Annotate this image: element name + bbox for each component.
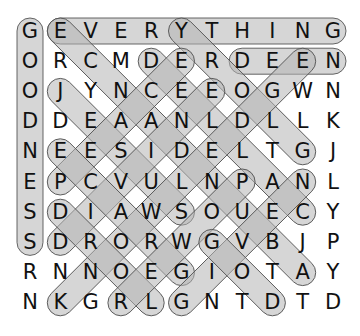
grid-cell-r8-c2[interactable]: N [76,258,106,288]
grid-cell-r9-c8[interactable]: D [257,288,287,318]
grid-cell-r6-c4[interactable]: W [136,197,166,227]
grid-cell-r7-c0[interactable]: S [15,227,45,257]
grid-cell-r8-c4[interactable]: E [136,258,166,288]
grid-cell-r3-c10[interactable]: K [318,107,348,137]
grid-cell-r0-c2[interactable]: V [76,16,106,46]
grid-cell-r9-c2[interactable]: G [76,288,106,318]
grid-cell-r4-c3[interactable]: S [106,137,136,167]
grid-cell-r8-c7[interactable]: O [227,258,257,288]
grid-cell-r7-c6[interactable]: G [197,227,227,257]
grid-cell-r6-c8[interactable]: E [257,197,287,227]
grid-cell-r6-c9[interactable]: C [288,197,318,227]
grid-cell-r4-c0[interactable]: N [15,137,45,167]
grid-cell-r5-c4[interactable]: U [136,167,166,197]
grid-cell-r0-c4[interactable]: R [136,16,166,46]
grid-cell-r4-c7[interactable]: L [227,137,257,167]
grid-cell-r3-c1[interactable]: D [45,107,75,137]
grid-cell-r9-c3[interactable]: R [106,288,136,318]
grid-cell-r6-c7[interactable]: U [227,197,257,227]
grid-cell-r8-c1[interactable]: N [45,258,75,288]
grid-cell-r2-c4[interactable]: C [136,76,166,106]
grid-cell-r1-c1[interactable]: R [45,46,75,76]
grid-cell-r2-c3[interactable]: N [106,76,136,106]
grid-cell-r6-c1[interactable]: D [45,197,75,227]
grid-cell-r8-c3[interactable]: O [106,258,136,288]
grid-cell-r0-c5[interactable]: Y [167,16,197,46]
grid-cell-r2-c10[interactable]: N [318,76,348,106]
grid-cell-r9-c4[interactable]: L [136,288,166,318]
grid-cell-r9-c1[interactable]: K [45,288,75,318]
grid-cell-r1-c6[interactable]: R [197,46,227,76]
grid-cell-r4-c5[interactable]: D [167,137,197,167]
grid-cell-r6-c3[interactable]: A [106,197,136,227]
grid-cell-r0-c1[interactable]: E [45,16,75,46]
grid-cell-r9-c0[interactable]: N [15,288,45,318]
grid-cell-r5-c8[interactable]: A [257,167,287,197]
grid-cell-r6-c6[interactable]: O [197,197,227,227]
grid-cell-r4-c9[interactable]: G [288,137,318,167]
grid-cell-r1-c0[interactable]: O [15,46,45,76]
grid-cell-r8-c10[interactable]: Y [318,258,348,288]
grid-cell-r4-c8[interactable]: T [257,137,287,167]
grid-cell-r7-c8[interactable]: B [257,227,287,257]
grid-cell-r0-c9[interactable]: N [288,16,318,46]
grid-cell-r1-c7[interactable]: D [227,46,257,76]
grid-cell-r1-c9[interactable]: E [288,46,318,76]
grid-cell-r3-c4[interactable]: A [136,107,166,137]
grid-cell-r5-c3[interactable]: V [106,167,136,197]
grid-cell-r2-c7[interactable]: O [227,76,257,106]
grid-cell-r5-c7[interactable]: P [227,167,257,197]
grid-cell-r1-c2[interactable]: C [76,46,106,76]
grid-cell-r0-c6[interactable]: T [197,16,227,46]
grid-cell-r0-c10[interactable]: G [318,16,348,46]
grid-cell-r2-c6[interactable]: E [197,76,227,106]
grid-cell-r8-c5[interactable]: G [167,258,197,288]
grid-cell-r8-c8[interactable]: T [257,258,287,288]
grid-cell-r4-c10[interactable]: J [318,137,348,167]
grid-cell-r6-c0[interactable]: S [15,197,45,227]
grid-cell-r4-c1[interactable]: E [45,137,75,167]
grid-cell-r9-c7[interactable]: T [227,288,257,318]
grid-cell-r9-c6[interactable]: N [197,288,227,318]
grid-cell-r3-c8[interactable]: L [257,107,287,137]
grid-cell-r2-c0[interactable]: O [15,76,45,106]
grid-cell-r3-c7[interactable]: D [227,107,257,137]
grid-cell-r1-c10[interactable]: N [318,46,348,76]
grid-cell-r5-c9[interactable]: N [288,167,318,197]
grid-cell-r7-c4[interactable]: R [136,227,166,257]
grid-cell-r2-c8[interactable]: G [257,76,287,106]
grid-cell-r3-c5[interactable]: N [167,107,197,137]
grid-cell-r6-c5[interactable]: S [167,197,197,227]
grid-cell-r8-c9[interactable]: A [288,258,318,288]
grid-cell-r0-c0[interactable]: G [15,16,45,46]
grid-cell-r5-c0[interactable]: E [15,167,45,197]
grid-cell-r5-c5[interactable]: L [167,167,197,197]
grid-cell-r5-c1[interactable]: P [45,167,75,197]
grid-cell-r7-c5[interactable]: W [167,227,197,257]
grid-cell-r2-c9[interactable]: W [288,76,318,106]
grid-cell-r7-c3[interactable]: O [106,227,136,257]
grid-cell-r4-c6[interactable]: E [197,137,227,167]
grid-cell-r3-c6[interactable]: L [197,107,227,137]
grid-cell-r9-c5[interactable]: G [167,288,197,318]
grid-cell-r2-c5[interactable]: E [167,76,197,106]
grid-cell-r9-c9[interactable]: T [288,288,318,318]
grid-cell-r8-c0[interactable]: R [15,258,45,288]
grid-cell-r5-c2[interactable]: C [76,167,106,197]
grid-cell-r3-c2[interactable]: E [76,107,106,137]
grid-cell-r7-c1[interactable]: D [45,227,75,257]
grid-cell-r1-c4[interactable]: D [136,46,166,76]
grid-cell-r6-c2[interactable]: I [76,197,106,227]
grid-cell-r7-c9[interactable]: J [288,227,318,257]
grid-cell-r6-c10[interactable]: Y [318,197,348,227]
grid-cell-r7-c10[interactable]: P [318,227,348,257]
grid-cell-r4-c2[interactable]: E [76,137,106,167]
grid-cell-r4-c4[interactable]: I [136,137,166,167]
grid-cell-r3-c9[interactable]: L [288,107,318,137]
grid-cell-r0-c7[interactable]: H [227,16,257,46]
grid-cell-r2-c1[interactable]: J [45,76,75,106]
grid-cell-r1-c5[interactable]: E [167,46,197,76]
grid-cell-r0-c8[interactable]: I [257,16,287,46]
grid-cell-r1-c3[interactable]: M [106,46,136,76]
grid-cell-r2-c2[interactable]: Y [76,76,106,106]
